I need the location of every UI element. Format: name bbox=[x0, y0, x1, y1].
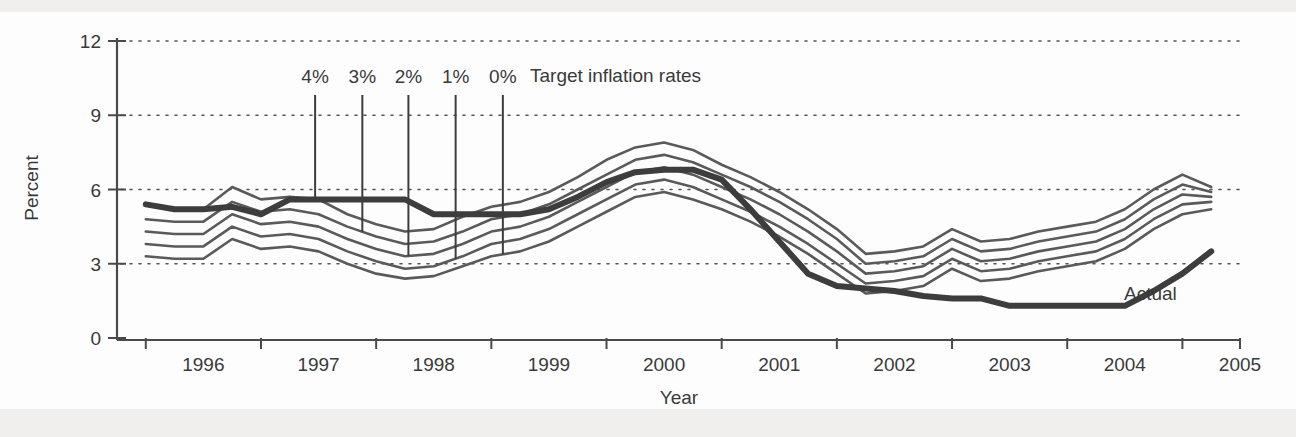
x-tick-label-2005: 2005 bbox=[1219, 354, 1261, 375]
pct-label-0pct: 0% bbox=[489, 66, 517, 87]
pct-label-4pct: 4% bbox=[301, 66, 329, 87]
x-tick-label-1998: 1998 bbox=[413, 354, 455, 375]
legend-label: Target inflation rates bbox=[530, 65, 701, 86]
actual-series-label: Actual bbox=[1124, 283, 1177, 304]
x-tick-label-1996: 1996 bbox=[182, 354, 224, 375]
inflation-target-line-chart: 036912 199619971998199920002001200220032… bbox=[0, 0, 1296, 437]
x-tick-label-2004: 2004 bbox=[1104, 354, 1147, 375]
pct-label-group: 4%3%2%1%0% bbox=[301, 66, 516, 87]
pct-label-1pct: 1% bbox=[442, 66, 470, 87]
x-tick-label-1997: 1997 bbox=[297, 354, 339, 375]
y-axis-title: Percent bbox=[21, 155, 42, 221]
x-tick-label-2003: 2003 bbox=[989, 354, 1031, 375]
y-tick-label-9: 9 bbox=[90, 105, 101, 126]
annotation-leader-lines-group bbox=[315, 95, 503, 259]
x-tick-label-group: 1996199719981999200020012002200320042005 bbox=[182, 354, 1261, 375]
x-tick-label-2001: 2001 bbox=[758, 354, 800, 375]
x-tick-label-1999: 1999 bbox=[528, 354, 570, 375]
y-tick-label-0: 0 bbox=[90, 328, 101, 349]
pct-label-3pct: 3% bbox=[349, 66, 377, 87]
pct-label-2pct: 2% bbox=[395, 66, 423, 87]
target-band-0pct bbox=[146, 192, 1211, 293]
y-tick-label-6: 6 bbox=[90, 180, 101, 201]
y-tick-label-group: 036912 bbox=[80, 31, 101, 349]
y-tick-label-3: 3 bbox=[90, 254, 101, 275]
x-tick-label-2002: 2002 bbox=[873, 354, 915, 375]
x-tick-label-2000: 2000 bbox=[643, 354, 685, 375]
target-band-lines-group bbox=[146, 142, 1211, 293]
chart-figure: 036912 199619971998199920002001200220032… bbox=[0, 0, 1296, 437]
y-tick-label-12: 12 bbox=[80, 31, 101, 52]
x-axis-title: Year bbox=[660, 387, 699, 408]
